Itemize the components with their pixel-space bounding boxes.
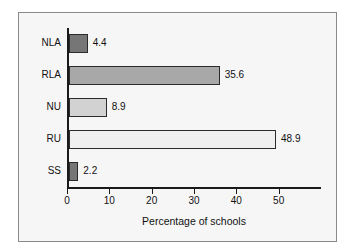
bar-value-label: 2.2 <box>83 165 97 176</box>
x-tick-mark <box>152 189 153 194</box>
x-tick-label: 10 <box>94 195 124 206</box>
x-tick-label: 30 <box>179 195 209 206</box>
x-tick-mark <box>194 189 195 194</box>
x-tick-label: 0 <box>52 195 82 206</box>
bar[interactable] <box>69 98 107 117</box>
x-axis-title: Percentage of schools <box>67 215 321 227</box>
bar[interactable] <box>69 162 78 181</box>
bar-value-label: 8.9 <box>112 101 126 112</box>
bar-value-label: 48.9 <box>281 133 300 144</box>
figure-canvas: 01020304050 4.4NLA35.6RLA8.9NU48.9RU2.2S… <box>0 0 355 252</box>
x-tick-mark <box>279 189 280 194</box>
bar-row: 35.6 <box>67 60 327 91</box>
x-tick-mark <box>67 189 68 194</box>
bar-value-label: 35.6 <box>225 69 244 80</box>
bar-row: 48.9 <box>67 124 327 155</box>
bar-row: 8.9 <box>67 92 327 123</box>
category-label: NLA <box>19 37 61 48</box>
plot-area: 01020304050 4.4NLA35.6RLA8.9NU48.9RU2.2S… <box>19 13 338 243</box>
category-label: RLA <box>19 69 61 80</box>
bar-row: 4.4 <box>67 28 327 59</box>
bar-row: 2.2 <box>67 156 327 187</box>
chart-frame: 01020304050 4.4NLA35.6RLA8.9NU48.9RU2.2S… <box>18 12 337 242</box>
x-tick-label: 50 <box>264 195 294 206</box>
category-label: SS <box>19 165 61 176</box>
bar-value-label: 4.4 <box>93 37 107 48</box>
x-tick-label: 40 <box>221 195 251 206</box>
category-label: RU <box>19 133 61 144</box>
bar[interactable] <box>69 34 88 53</box>
bar[interactable] <box>69 130 276 149</box>
x-tick-mark <box>236 189 237 194</box>
x-tick-label: 20 <box>137 195 167 206</box>
x-tick-mark <box>109 189 110 194</box>
bar[interactable] <box>69 66 220 85</box>
category-label: NU <box>19 101 61 112</box>
